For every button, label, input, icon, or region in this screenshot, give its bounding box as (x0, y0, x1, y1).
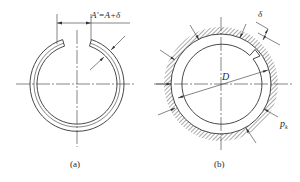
caption-b: (b) (214, 159, 225, 169)
arrow-left-icon (57, 22, 62, 25)
caption-a: (a) (70, 159, 80, 169)
pressure-label: pk (279, 118, 288, 130)
gap-end-right (90, 40, 92, 47)
piston-ring-diagram: A'=A+δ (a) (0, 0, 300, 182)
pressure-subscript: k (285, 124, 288, 130)
gap-end-left (63, 40, 65, 47)
thickness-label: δ (258, 9, 263, 19)
figure-a-free-ring (16, 14, 136, 147)
arrow-right-icon (86, 22, 91, 25)
gap-dimension-label: A'=A+δ (90, 10, 121, 20)
figure-b-installed-ring (154, 17, 292, 150)
diameter-label: D (221, 71, 230, 82)
